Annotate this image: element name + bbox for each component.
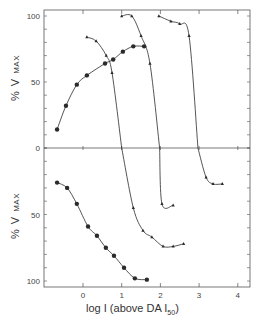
y-label-bottom-sub: MAX: [12, 193, 21, 212]
series-line: [57, 183, 147, 280]
data-point-circle: [112, 254, 116, 258]
x-label-sub: 50: [167, 309, 175, 316]
data-point-triangle: [148, 62, 151, 65]
data-point-triangle: [182, 242, 185, 245]
x-label-text: log I (above DA I: [86, 302, 167, 314]
data-point-triangle: [172, 203, 175, 206]
data-point-triangle: [187, 34, 190, 37]
series-line: [87, 37, 122, 148]
data-point-triangle: [150, 235, 153, 238]
data-point-triangle: [139, 34, 142, 37]
data-point-triangle: [132, 206, 135, 209]
data-point-circle: [85, 73, 89, 77]
data-point-circle: [145, 277, 149, 281]
y-label-top-sub: MAX: [12, 55, 21, 74]
data-point-circle: [86, 224, 90, 228]
chart-canvas: 0123405010050100: [0, 0, 261, 325]
data-point-circle: [121, 49, 125, 53]
x-axis-label: log I (above DA I50): [86, 302, 179, 316]
data-point-circle: [122, 266, 126, 270]
x-tick-label: 1: [119, 291, 124, 300]
y-axis-label-bottom: % V MAX: [9, 193, 21, 239]
series-line: [122, 15, 160, 148]
x-label-close: ): [175, 302, 179, 314]
y-tick-label-bottom: 100: [27, 277, 41, 286]
data-point-circle: [111, 57, 115, 61]
data-point-circle: [95, 234, 99, 238]
series-line: [198, 148, 222, 184]
data-point-circle: [131, 44, 135, 48]
data-point-circle: [104, 246, 108, 250]
x-tick-label: 3: [197, 291, 202, 300]
data-point-triangle: [160, 202, 163, 205]
data-point-circle: [55, 127, 59, 131]
data-point-triangle: [130, 14, 133, 17]
y-tick-label-top: 0: [36, 144, 41, 153]
y-axis-label-top: % V MAX: [9, 55, 21, 101]
y-tick-label-top: 50: [31, 78, 40, 87]
data-point-triangle: [110, 71, 113, 74]
y-label-bottom-text: % V: [9, 216, 21, 239]
data-point-triangle: [204, 175, 207, 178]
y-tick-label-bottom: 50: [31, 211, 40, 220]
x-tick-label: 2: [158, 291, 163, 300]
y-tick-label-top: 100: [27, 12, 41, 21]
series-line: [159, 16, 198, 148]
data-point-triangle: [85, 35, 88, 38]
y-label-top-text: % V: [9, 78, 21, 101]
series-line: [122, 148, 184, 247]
data-point-circle: [64, 104, 68, 108]
x-tick-label: 4: [236, 291, 241, 300]
data-point-circle: [103, 61, 107, 65]
data-point-circle: [75, 202, 79, 206]
data-point-circle: [133, 276, 137, 280]
series-line: [160, 148, 174, 208]
data-point-circle: [55, 180, 59, 184]
series-line: [57, 46, 144, 130]
x-tick-label: 0: [81, 291, 86, 300]
data-point-circle: [75, 82, 79, 86]
data-point-circle: [65, 186, 69, 190]
data-point-triangle: [157, 14, 160, 17]
